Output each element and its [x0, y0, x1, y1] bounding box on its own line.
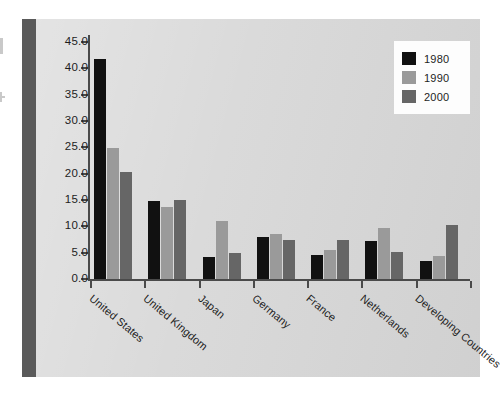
- bar-1980-japan: [203, 257, 215, 279]
- legend-swatch-2000: [402, 90, 416, 103]
- bar-1990-germany: [270, 234, 282, 279]
- bar-chart-plot: 0.05.010.015.020.025.030.035.040.045.0 U…: [0, 0, 502, 396]
- x-axis-label-netherlands: Netherlands: [359, 292, 413, 340]
- bar-1990-developing-countries: [433, 256, 445, 279]
- legend-label-1980: 1980: [424, 53, 449, 65]
- bar-1980-united-kingdom: [148, 201, 160, 279]
- bar-1980-france: [311, 255, 323, 279]
- legend-label-1990: 1990: [424, 72, 449, 84]
- legend-label-2000: 2000: [424, 91, 449, 103]
- bar-2000-developing-countries: [446, 225, 458, 279]
- x-axis-tick: [361, 281, 363, 288]
- x-axis-label-united-states: United States: [87, 292, 146, 344]
- x-axis-tick: [90, 281, 92, 288]
- legend-entry-1980: 1980: [402, 49, 464, 68]
- bar-2000-united-kingdom: [174, 200, 186, 279]
- x-axis-label-developing-countries: Developing Countries: [413, 292, 502, 370]
- bar-2000-japan: [229, 253, 241, 279]
- legend-entry-2000: 2000: [402, 87, 464, 106]
- x-axis-label-japan: Japan: [196, 292, 227, 321]
- x-axis-label-france: France: [304, 292, 338, 324]
- bar-1990-netherlands: [378, 228, 390, 279]
- x-axis-tick: [199, 281, 201, 288]
- bar-1980-germany: [257, 237, 269, 279]
- bar-2000-france: [337, 240, 349, 279]
- x-axis-tick: [470, 281, 472, 288]
- bar-1980-united-states: [94, 59, 106, 279]
- legend-entry-1990: 1990: [402, 68, 464, 87]
- bar-1990-france: [324, 250, 336, 279]
- bar-2000-germany: [283, 240, 295, 279]
- legend-swatch-1980: [402, 52, 416, 65]
- chart-legend: 198019902000: [394, 41, 470, 114]
- bar-1990-united-kingdom: [161, 207, 173, 279]
- bar-2000-netherlands: [391, 252, 403, 279]
- bar-2000-united-states: [120, 172, 132, 279]
- bar-1980-netherlands: [365, 241, 377, 279]
- x-axis-tick: [253, 281, 255, 288]
- bar-1990-united-states: [107, 148, 119, 279]
- x-axis-tick: [144, 281, 146, 288]
- x-axis-tick: [416, 281, 418, 288]
- x-axis-tick: [307, 281, 309, 288]
- scanned-chart-page: 0.05.010.015.020.025.030.035.040.045.0 U…: [0, 0, 502, 396]
- legend-swatch-1990: [402, 71, 416, 84]
- x-axis-label-germany: Germany: [250, 292, 293, 331]
- bar-1980-developing-countries: [420, 261, 432, 279]
- bar-1990-japan: [216, 221, 228, 279]
